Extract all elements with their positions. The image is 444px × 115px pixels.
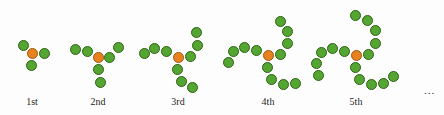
branch-node bbox=[366, 79, 377, 90]
continuation-ellipsis: ... bbox=[424, 84, 435, 96]
sequence-figure: 1st2nd3rd4th5th... bbox=[0, 0, 444, 115]
branch-node bbox=[362, 15, 373, 26]
branch-node bbox=[388, 71, 399, 82]
branch-node bbox=[339, 46, 350, 57]
figure-label: 5th bbox=[336, 96, 376, 107]
branch-node bbox=[354, 74, 365, 85]
figure-panel-5th: 5th bbox=[0, 0, 444, 115]
branch-node bbox=[350, 62, 361, 73]
center-node bbox=[351, 50, 362, 61]
branch-node bbox=[311, 58, 322, 69]
branch-node bbox=[370, 38, 381, 49]
branch-node bbox=[327, 43, 338, 54]
branch-node bbox=[313, 70, 324, 81]
branch-node bbox=[370, 25, 381, 36]
branch-node bbox=[316, 47, 327, 58]
branch-node bbox=[350, 10, 361, 21]
branch-node bbox=[363, 49, 374, 60]
branch-node bbox=[378, 78, 389, 89]
